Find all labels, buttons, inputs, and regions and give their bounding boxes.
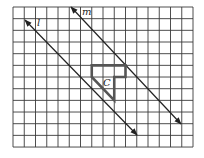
figure-c-label: C bbox=[103, 77, 111, 88]
line-l-label: l bbox=[37, 17, 40, 28]
reflection-diagram: l m C bbox=[0, 0, 204, 158]
line-m-label: m bbox=[82, 6, 91, 17]
